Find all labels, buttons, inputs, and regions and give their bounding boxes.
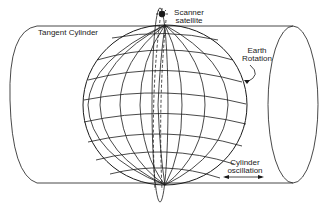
globe-outline bbox=[83, 25, 247, 185]
label-cylinder-oscillation: Cylinder oscillation bbox=[225, 159, 265, 175]
label-earth-rotation: Earth Rotation bbox=[238, 47, 276, 63]
orbit-track bbox=[153, 20, 160, 190]
cylinder-left-arc bbox=[10, 26, 37, 183]
label-scanner-satellite: Scanner satellite bbox=[170, 9, 208, 25]
label-scanner-line2: satellite bbox=[170, 17, 208, 25]
globe bbox=[83, 8, 247, 202]
label-tangent-cylinder: Tangent Cylinder bbox=[38, 29, 98, 37]
label-earth-line2: Rotation bbox=[238, 55, 276, 63]
oscillation-arrow-icon bbox=[223, 175, 264, 179]
orbit-ellipse bbox=[152, 8, 168, 202]
earth-rotation-arrow-icon bbox=[244, 65, 255, 84]
label-cyl-line2: oscillation bbox=[225, 167, 265, 175]
